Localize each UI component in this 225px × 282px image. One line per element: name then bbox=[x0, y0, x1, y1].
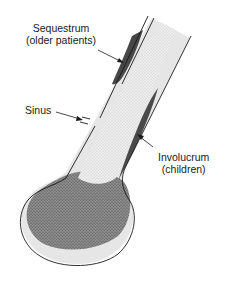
involucrum-label: Involucrum (children) bbox=[158, 151, 209, 175]
sinus-label: Sinus bbox=[25, 104, 51, 116]
epiphysis-region bbox=[27, 171, 131, 250]
involucrum-label-line1: Involucrum bbox=[158, 151, 209, 163]
sequestrum-leader bbox=[98, 50, 124, 63]
involucrum-leader bbox=[137, 134, 153, 147]
sequestrum-label-line1: Sequestrum bbox=[26, 22, 96, 34]
sequestrum-label-line2: (older patients) bbox=[26, 34, 96, 46]
sinus-label-line1: Sinus bbox=[25, 104, 51, 116]
sinus-opening bbox=[80, 117, 90, 124]
sequestrum-label: Sequestrum (older patients) bbox=[26, 22, 96, 46]
involucrum-label-line2: (children) bbox=[158, 163, 209, 175]
sinus-leader bbox=[56, 112, 83, 121]
